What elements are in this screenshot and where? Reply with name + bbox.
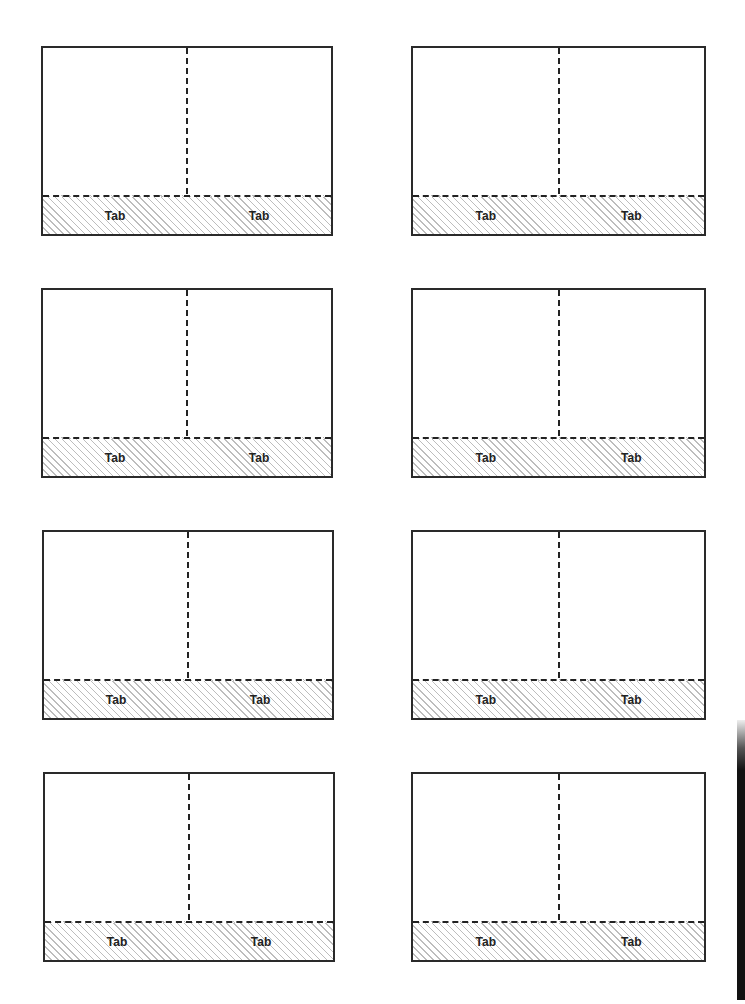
tab-left: Tab [413, 681, 559, 718]
tab-strip: Tab Tab [413, 921, 704, 960]
tab-label: Tab [476, 451, 496, 465]
tab-label: Tab [249, 451, 269, 465]
tab-right: Tab [188, 681, 332, 718]
tab-left: Tab [43, 439, 187, 476]
tab-label: Tab [251, 935, 271, 949]
tab-left: Tab [413, 923, 559, 960]
tab-label: Tab [105, 209, 125, 223]
tab-label: Tab [107, 935, 127, 949]
tab-left: Tab [44, 681, 188, 718]
tab-strip: Tab Tab [413, 195, 704, 234]
tab-right: Tab [187, 197, 331, 234]
tab-strip: Tab Tab [413, 679, 704, 718]
tab-label: Tab [105, 451, 125, 465]
card-4: Tab Tab [411, 288, 706, 478]
scan-edge-shadow [737, 720, 745, 1000]
tab-label: Tab [476, 693, 496, 707]
tab-strip: Tab Tab [413, 437, 704, 476]
tab-strip: Tab Tab [44, 679, 332, 718]
tab-left: Tab [45, 923, 189, 960]
tab-right: Tab [559, 923, 705, 960]
card-6: Tab Tab [411, 530, 706, 720]
tab-right: Tab [189, 923, 333, 960]
tab-label: Tab [621, 693, 641, 707]
card-3: Tab Tab [41, 288, 333, 478]
tab-left: Tab [43, 197, 187, 234]
card-7: Tab Tab [43, 772, 335, 962]
tab-strip: Tab Tab [43, 437, 331, 476]
card-2: Tab Tab [411, 46, 706, 236]
tab-label: Tab [106, 693, 126, 707]
tab-label: Tab [476, 935, 496, 949]
tab-right: Tab [559, 197, 705, 234]
tab-right: Tab [559, 439, 705, 476]
card-8: Tab Tab [411, 772, 706, 962]
tab-left: Tab [413, 439, 559, 476]
tab-left: Tab [413, 197, 559, 234]
tab-label: Tab [621, 209, 641, 223]
tab-label: Tab [249, 209, 269, 223]
tab-right: Tab [187, 439, 331, 476]
tab-strip: Tab Tab [43, 195, 331, 234]
tab-label: Tab [250, 693, 270, 707]
tab-right: Tab [559, 681, 705, 718]
card-5: Tab Tab [42, 530, 334, 720]
tab-label: Tab [621, 451, 641, 465]
tab-label: Tab [621, 935, 641, 949]
tab-strip: Tab Tab [45, 921, 333, 960]
card-1: Tab Tab [41, 46, 333, 236]
tab-label: Tab [476, 209, 496, 223]
